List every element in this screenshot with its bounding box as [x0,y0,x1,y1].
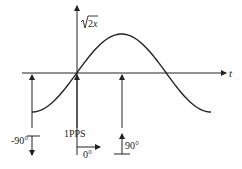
amplitude-axis-text: 2x [88,18,98,29]
plus90-label: 90° [125,140,139,151]
minus90-label: -90° [11,135,28,146]
zero-label: 0° [83,149,92,160]
reference-label-1pps: 1PPS [64,128,86,139]
amplitude-axis-label: 2x [81,16,98,29]
sine-phase-diagram: t 2x -90° 1PPS 0° 90° [0,0,242,169]
time-axis-label: t [229,67,233,79]
